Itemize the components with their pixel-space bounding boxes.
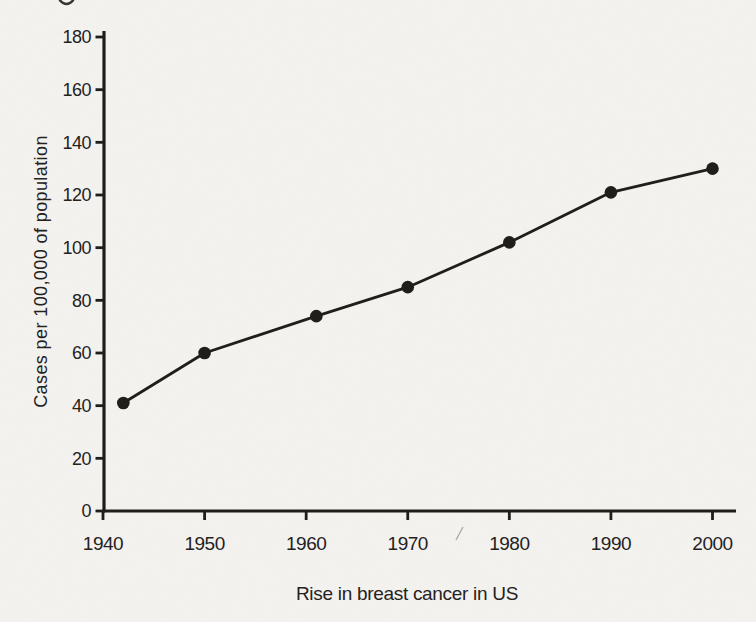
y-tick-label: 100 [62,238,91,258]
data-point [198,347,211,360]
x-tick-label: 1990 [591,533,631,554]
y-tick-label: 120 [62,185,91,205]
y-tick-label: 180 [62,27,91,47]
y-tick-label: 0 [81,501,91,521]
chart-caption: Rise in breast cancer in US [207,583,607,605]
y-tick-label: 160 [62,80,91,100]
x-tick-label: 1940 [83,533,123,554]
scanned-page: 0204060801001201401601801940195019601970… [0,0,756,622]
x-tick-label: 1970 [388,533,428,554]
y-tick-label: 80 [72,291,92,311]
y-tick-label: 60 [72,343,92,363]
y-tick-label: 40 [72,396,92,416]
x-tick-label: 2000 [692,533,732,554]
y-axis-title: Cases per 100,000 of population [31,102,52,442]
x-tick-label: 1980 [489,533,529,554]
x-tick-label: 1960 [286,533,326,554]
y-tick-label: 20 [72,449,92,469]
data-point [117,397,130,410]
x-tick-label: 1950 [184,533,224,554]
data-point [605,186,618,199]
line-chart: 0204060801001201401601801940195019601970… [0,0,756,622]
data-point [401,281,414,294]
y-tick-label: 140 [62,133,91,153]
paper-grain-overlay [0,0,756,622]
data-point [310,310,323,323]
data-point [706,162,719,175]
data-point [503,236,516,249]
